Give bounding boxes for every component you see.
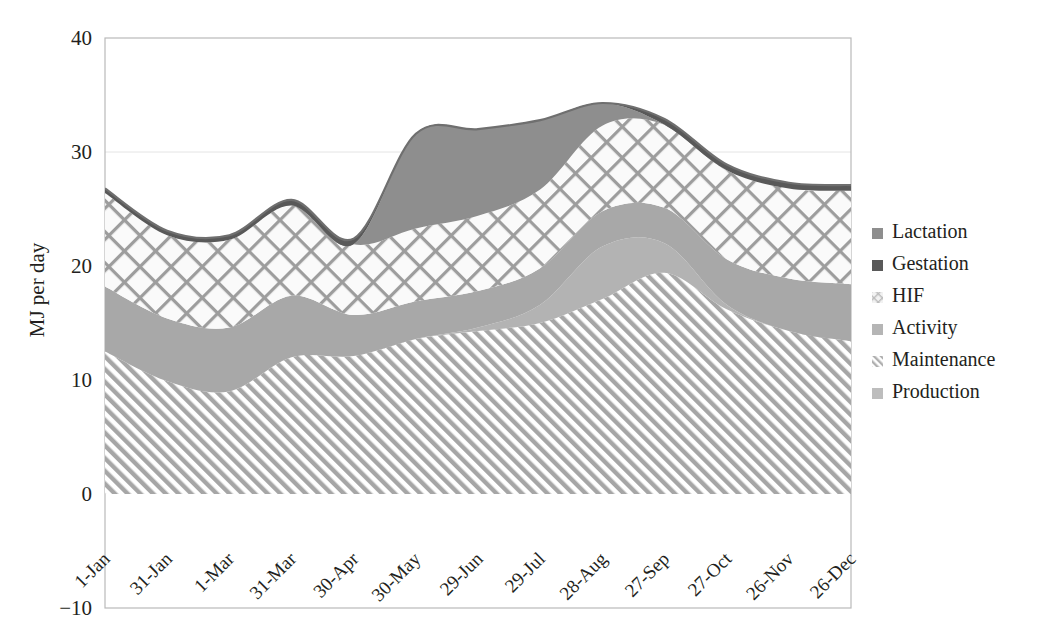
legend-label-activity[interactable]: Activity <box>892 316 958 339</box>
legend-label-maintenance[interactable]: Maintenance <box>892 348 995 370</box>
legend-swatch-hif <box>872 292 883 303</box>
y-tick-label: 0 <box>82 482 93 506</box>
y-axis-title: MJ per day <box>25 242 49 337</box>
y-tick-label: 10 <box>71 368 92 392</box>
legend-swatch-production <box>872 388 883 399</box>
legend-swatch-lactation <box>872 228 883 239</box>
y-tick-label: 20 <box>71 254 92 278</box>
legend-swatch-activity <box>872 324 883 335</box>
chart-container: 403020100−10 1-Jan31-Jan1-Mar31-Mar30-Ap… <box>0 0 1049 642</box>
legend-label-lactation[interactable]: Lactation <box>892 220 968 242</box>
legend-label-production[interactable]: Production <box>892 380 980 402</box>
legend-swatch-maintenance <box>872 356 883 367</box>
y-tick-label: 40 <box>71 26 92 50</box>
legend-label-gestation[interactable]: Gestation <box>892 252 969 274</box>
y-tick-label: −10 <box>59 596 92 620</box>
legend-label-hif[interactable]: HIF <box>892 284 924 306</box>
y-tick-label: 30 <box>71 140 92 164</box>
legend-swatch-gestation <box>872 260 883 271</box>
stacked-area-chart: 403020100−10 1-Jan31-Jan1-Mar31-Mar30-Ap… <box>0 0 1049 642</box>
